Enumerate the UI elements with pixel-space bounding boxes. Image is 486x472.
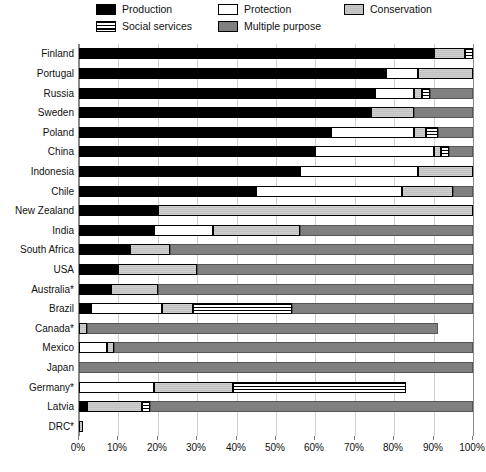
bar-segment-multiple bbox=[79, 362, 473, 373]
y-axis-label: Brazil bbox=[0, 303, 74, 314]
bar-segment-protection bbox=[331, 127, 414, 138]
bar-segment-production bbox=[79, 186, 256, 197]
bar-segment-production bbox=[79, 146, 315, 157]
bar-row bbox=[79, 88, 473, 99]
gridline bbox=[276, 44, 277, 436]
bar-segment-production bbox=[79, 68, 386, 79]
x-axis-tick bbox=[236, 436, 237, 440]
bar-segment-social bbox=[193, 303, 292, 314]
gridline bbox=[237, 44, 238, 436]
plot-area bbox=[78, 44, 474, 436]
legend-swatch-icon bbox=[218, 21, 238, 32]
stacked-bar-chart: ProductionSocial servicesProtectionMulti… bbox=[0, 0, 486, 472]
bar-segment-production bbox=[79, 244, 130, 255]
x-axis-tick-label: 10% bbox=[107, 442, 127, 453]
y-axis-label: India bbox=[0, 225, 74, 236]
y-axis-label: Mexico bbox=[0, 342, 74, 353]
legend-swatch-icon bbox=[96, 4, 116, 15]
bar-row bbox=[79, 107, 473, 118]
y-axis-label: Poland bbox=[0, 127, 74, 138]
bar-segment-multiple bbox=[158, 284, 473, 295]
x-axis-tick-label: 90% bbox=[423, 442, 443, 453]
y-axis-label: Latvia bbox=[0, 401, 74, 412]
bar-segment-conservation bbox=[418, 166, 473, 177]
legend-item: Protection bbox=[218, 4, 291, 15]
y-axis-label: China bbox=[0, 146, 74, 157]
x-axis-tick bbox=[157, 436, 158, 440]
bar-row bbox=[79, 264, 473, 275]
bar-segment-conservation bbox=[154, 382, 233, 393]
bar-row bbox=[79, 68, 473, 79]
bar-segment-conservation bbox=[158, 205, 473, 216]
y-axis-label: New Zealand bbox=[0, 205, 74, 216]
bar-segment-social bbox=[233, 382, 406, 393]
legend-item: Conservation bbox=[344, 4, 432, 15]
bar-row bbox=[79, 166, 473, 177]
bar-segment-conservation bbox=[107, 342, 115, 353]
bar-row bbox=[79, 244, 473, 255]
y-axis-label: Australia* bbox=[0, 284, 74, 295]
bar-segment-conservation bbox=[213, 225, 300, 236]
bar-row bbox=[79, 127, 473, 138]
x-axis-tick bbox=[314, 436, 315, 440]
x-axis-tick-label: 20% bbox=[147, 442, 167, 453]
y-axis-label: USA bbox=[0, 264, 74, 275]
x-axis-tick bbox=[275, 436, 276, 440]
bar-segment-multiple bbox=[150, 401, 473, 412]
legend-swatch-icon bbox=[218, 4, 238, 15]
y-axis-label: Finland bbox=[0, 48, 74, 59]
bar-segment-social bbox=[426, 127, 438, 138]
gridline bbox=[473, 44, 474, 436]
bar-segment-conservation bbox=[414, 88, 422, 99]
x-axis-tick-label: 80% bbox=[383, 442, 403, 453]
bar-row bbox=[79, 225, 473, 236]
bar-segment-protection bbox=[300, 166, 418, 177]
x-axis-tick bbox=[117, 436, 118, 440]
bar-row bbox=[79, 323, 473, 334]
x-axis-tick bbox=[354, 436, 355, 440]
bar-segment-multiple bbox=[414, 107, 473, 118]
x-axis-tick-label: 100% bbox=[459, 442, 485, 453]
x-axis-tick-label: 70% bbox=[344, 442, 364, 453]
bar-segment-protection bbox=[154, 225, 213, 236]
bar-segment-conservation bbox=[162, 303, 194, 314]
legend-label: Production bbox=[122, 4, 172, 15]
bar-row bbox=[79, 342, 473, 353]
y-axis-label: DRC* bbox=[0, 421, 74, 432]
gridline bbox=[158, 44, 159, 436]
bar-segment-production bbox=[79, 48, 434, 59]
y-axis-label: Russia bbox=[0, 88, 74, 99]
bar-segment-production bbox=[79, 107, 371, 118]
bar-segment-multiple bbox=[453, 186, 473, 197]
bar-row bbox=[79, 421, 473, 432]
bar-segment-protection bbox=[79, 382, 154, 393]
legend-swatch-icon bbox=[344, 4, 364, 15]
bar-segment-conservation bbox=[79, 323, 87, 334]
bar-segment-multiple bbox=[300, 225, 473, 236]
bar-segment-production bbox=[79, 166, 300, 177]
gridline bbox=[197, 44, 198, 436]
x-axis-tick-label: 40% bbox=[226, 442, 246, 453]
bar-segment-protection bbox=[256, 186, 402, 197]
y-axis-label: Germany* bbox=[0, 382, 74, 393]
bar-row bbox=[79, 186, 473, 197]
bar-segment-conservation bbox=[111, 284, 158, 295]
bar-segment-protection bbox=[375, 88, 414, 99]
y-axis-label: Indonesia bbox=[0, 166, 74, 177]
legend-item: Production bbox=[96, 4, 172, 15]
bar-segment-conservation bbox=[118, 264, 197, 275]
legend-label: Multiple purpose bbox=[244, 21, 321, 32]
bar-segment-conservation bbox=[130, 244, 169, 255]
bar-segment-production bbox=[79, 225, 154, 236]
legend-label: Protection bbox=[244, 4, 291, 15]
bar-segment-production bbox=[79, 401, 87, 412]
bar-segment-protection bbox=[91, 303, 162, 314]
y-axis-label: Japan bbox=[0, 362, 74, 373]
y-axis-label: South Africa bbox=[0, 244, 74, 255]
bar-segment-protection bbox=[79, 342, 107, 353]
y-axis-label: Canada* bbox=[0, 323, 74, 334]
bar-segment-social bbox=[465, 48, 473, 59]
x-axis-tick bbox=[433, 436, 434, 440]
bar-segment-multiple bbox=[449, 146, 473, 157]
bar-segment-multiple bbox=[438, 127, 473, 138]
